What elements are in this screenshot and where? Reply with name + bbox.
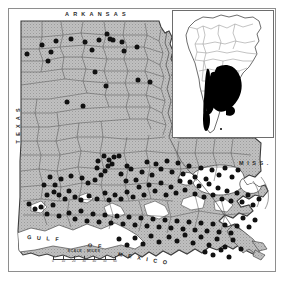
locality-dot — [135, 45, 140, 50]
locality-dot — [134, 178, 139, 183]
locality-dot — [199, 235, 204, 240]
scale-tick-label: 20 — [72, 260, 76, 263]
locality-dot — [174, 191, 179, 196]
locality-dot — [53, 183, 58, 188]
locality-dot — [187, 164, 192, 169]
locality-dot — [40, 43, 45, 48]
native-range-shading — [203, 65, 242, 131]
locality-dot — [164, 193, 169, 198]
locality-dot — [211, 222, 216, 227]
locality-dot — [63, 197, 68, 202]
locality-dot — [115, 214, 120, 219]
locality-dot — [97, 38, 102, 43]
locality-dot — [170, 170, 175, 175]
locality-dot — [187, 220, 192, 225]
locality-dot — [45, 193, 50, 198]
locality-dot — [236, 168, 241, 173]
scale-tick-label: 30 — [82, 260, 86, 263]
locality-dot — [67, 211, 72, 216]
locality-dot — [191, 241, 196, 246]
locality-dot — [119, 172, 124, 177]
locality-dot — [220, 197, 225, 202]
locality-dot — [73, 195, 78, 200]
locality-dot — [133, 223, 138, 228]
locality-dot — [97, 220, 102, 225]
south-america-outline — [173, 11, 273, 137]
locality-dot — [251, 203, 256, 208]
locality-dot — [207, 243, 212, 248]
locality-dot — [122, 49, 127, 54]
locality-dot — [159, 167, 164, 172]
locality-dot — [223, 223, 228, 228]
locality-dot — [163, 218, 168, 223]
locality-dot — [149, 234, 154, 239]
locality-dot — [121, 222, 126, 227]
locality-dot — [69, 37, 74, 42]
locality-dot — [119, 197, 124, 202]
locality-dot — [154, 162, 159, 167]
scale-tick-label: 40 — [93, 260, 97, 263]
locality-dot — [54, 39, 59, 44]
locality-dot — [113, 193, 118, 198]
locality-dot — [217, 230, 222, 235]
locality-dot — [85, 219, 90, 224]
locality-dot — [215, 237, 220, 242]
locality-dot — [199, 166, 204, 171]
locality-dot — [42, 183, 47, 188]
locality-dot — [124, 179, 129, 184]
locality-dot — [151, 217, 156, 222]
locality-dot — [90, 48, 95, 53]
falklands-marker — [220, 128, 222, 130]
scale-bar: SCALE - MILES 0102030405060 — [51, 250, 117, 266]
locality-dot — [83, 40, 88, 45]
locality-dot — [247, 225, 252, 230]
locality-dot — [181, 227, 186, 232]
locality-dot — [230, 175, 235, 180]
locality-dot — [129, 167, 134, 172]
locality-dot — [109, 221, 114, 226]
locality-dot — [45, 212, 50, 217]
locality-dot — [142, 193, 147, 198]
locality-dot — [39, 205, 44, 210]
locality-dot — [153, 189, 158, 194]
locality-dot — [204, 177, 209, 182]
locality-dot — [169, 226, 174, 231]
locality-dot — [141, 242, 146, 247]
locality-dot — [136, 78, 141, 83]
scale-tick-label: 60 — [113, 260, 117, 263]
locality-dot — [46, 59, 51, 64]
locality-dot — [246, 193, 251, 198]
locality-dot — [107, 198, 112, 203]
locality-dot — [150, 173, 155, 178]
locality-dot — [127, 215, 132, 220]
locality-dot — [193, 192, 198, 197]
scale-tick-label: 0 — [52, 260, 54, 263]
south-america-inset — [172, 10, 274, 138]
locality-dot — [112, 155, 117, 160]
locality-dot — [167, 235, 172, 240]
locality-dot — [145, 224, 150, 229]
locality-dot — [93, 70, 98, 75]
locality-dot — [147, 183, 152, 188]
locality-dot — [95, 197, 100, 202]
locality-dot — [52, 190, 57, 195]
locality-dot — [79, 198, 84, 203]
locality-dot — [178, 179, 183, 184]
locality-dot — [125, 243, 130, 248]
locality-dot — [175, 239, 180, 244]
main-map-canvas: ARKANSAS TEXAS MISS. GULF OF MEXICO SCAL… — [9, 9, 275, 271]
locality-dot — [79, 209, 84, 214]
scale-tick-label: 10 — [62, 260, 66, 263]
locality-dot — [103, 191, 108, 196]
locality-dot — [111, 38, 116, 43]
distribution-map-figure: ARKANSAS TEXAS MISS. GULF OF MEXICO SCAL… — [0, 0, 286, 282]
locality-dot — [188, 180, 193, 185]
locality-dot — [207, 182, 212, 187]
locality-dot — [159, 181, 164, 186]
locality-dot — [99, 173, 104, 178]
locality-dot — [48, 175, 53, 180]
locality-dot — [157, 240, 162, 245]
locality-dot — [91, 212, 96, 217]
locality-dot — [133, 236, 138, 241]
locality-dot — [95, 166, 100, 171]
